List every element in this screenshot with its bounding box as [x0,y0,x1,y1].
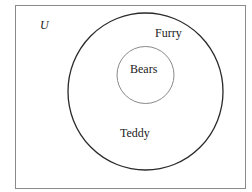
universe-label: U [40,18,50,32]
furry-set-label: Furry [155,26,182,40]
venn-diagram: U Furry Bears Teddy [0,0,252,192]
bears-set-label: Bears [130,62,158,76]
teddy-label: Teddy [120,126,150,140]
universe-rectangle [16,6,246,189]
